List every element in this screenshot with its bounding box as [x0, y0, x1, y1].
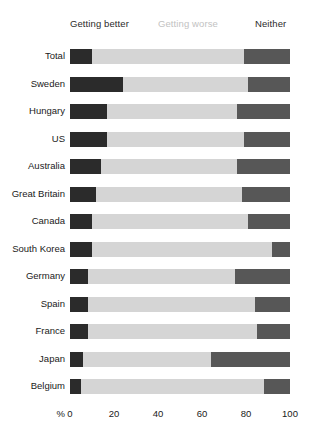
- legend-item-getting-better: Getting better: [70, 18, 129, 30]
- bar-segment-getting-better: [70, 269, 88, 284]
- x-axis: % 020406080100: [0, 404, 312, 426]
- bar-segment-getting-worse: [83, 352, 211, 367]
- bar-segment-getting-worse: [101, 159, 237, 174]
- bar-segment-getting-better: [70, 242, 92, 257]
- bar-segment-getting-better: [70, 297, 88, 312]
- stacked-bar-chart: Getting better Getting worse Neither Tot…: [0, 0, 312, 448]
- bar-track: [70, 379, 290, 394]
- bar-row: Canada: [0, 211, 312, 239]
- legend-item-neither: Neither: [255, 18, 286, 30]
- x-axis-tick-label: 80: [241, 408, 252, 420]
- bar-row: Hungary: [0, 101, 312, 129]
- bar-track: [70, 187, 290, 202]
- bar-segment-neither: [257, 324, 290, 339]
- bar-row: South Korea: [0, 239, 312, 267]
- bar-row: Japan: [0, 349, 312, 377]
- bar-row-label: Spain: [0, 298, 65, 310]
- bar-row-label: Great Britain: [0, 188, 65, 200]
- bar-segment-getting-better: [70, 352, 83, 367]
- x-axis-unit-label: %: [45, 408, 65, 420]
- bar-row-label: Canada: [0, 215, 65, 227]
- bar-segment-neither: [264, 379, 290, 394]
- bar-track: [70, 49, 290, 64]
- x-axis-tick-label: 0: [67, 408, 72, 420]
- bar-segment-getting-worse: [92, 242, 272, 257]
- bar-segment-getting-worse: [88, 324, 257, 339]
- bar-segment-neither: [237, 104, 290, 119]
- bar-segment-getting-better: [70, 214, 92, 229]
- bar-row: Germany: [0, 266, 312, 294]
- bar-segment-neither: [248, 214, 290, 229]
- chart-legend: Getting better Getting worse Neither: [0, 18, 312, 36]
- bar-segment-neither: [235, 269, 290, 284]
- bar-row-label: Hungary: [0, 105, 65, 117]
- bar-segment-getting-better: [70, 132, 107, 147]
- chart-plot-area: TotalSwedenHungaryUSAustraliaGreat Brita…: [0, 46, 312, 404]
- bar-row-label: US: [0, 133, 65, 145]
- bar-row-label: Sweden: [0, 78, 65, 90]
- bar-segment-getting-worse: [81, 379, 264, 394]
- bar-track: [70, 132, 290, 147]
- bar-segment-getting-better: [70, 159, 101, 174]
- bar-segment-neither: [255, 297, 290, 312]
- x-axis-tick-label: 40: [153, 408, 164, 420]
- bar-row-label: France: [0, 325, 65, 337]
- bar-segment-neither: [248, 77, 290, 92]
- bar-segment-getting-worse: [107, 104, 237, 119]
- bar-track: [70, 324, 290, 339]
- bar-row: Australia: [0, 156, 312, 184]
- bar-row-label: Total: [0, 50, 65, 62]
- bar-segment-getting-worse: [92, 214, 248, 229]
- bar-row: France: [0, 321, 312, 349]
- bar-row: Great Britain: [0, 184, 312, 212]
- bar-row-label: Germany: [0, 270, 65, 282]
- bar-row: Belgium: [0, 376, 312, 404]
- bar-segment-getting-better: [70, 187, 96, 202]
- bar-segment-getting-worse: [92, 49, 244, 64]
- bar-segment-neither: [244, 132, 290, 147]
- bar-segment-neither: [242, 187, 290, 202]
- bar-row-label: Australia: [0, 160, 65, 172]
- bar-track: [70, 297, 290, 312]
- bar-row: Total: [0, 46, 312, 74]
- bar-segment-getting-worse: [88, 297, 255, 312]
- bar-segment-getting-worse: [107, 132, 243, 147]
- bar-segment-getting-worse: [88, 269, 235, 284]
- x-axis-tick-label: 100: [282, 408, 298, 420]
- bar-segment-getting-worse: [123, 77, 248, 92]
- bar-track: [70, 242, 290, 257]
- bar-segment-getting-better: [70, 379, 81, 394]
- legend-item-getting-worse: Getting worse: [158, 18, 218, 30]
- x-axis-tick-label: 60: [197, 408, 208, 420]
- bar-track: [70, 269, 290, 284]
- bar-segment-neither: [237, 159, 290, 174]
- bar-track: [70, 214, 290, 229]
- bar-segment-getting-better: [70, 324, 88, 339]
- bar-track: [70, 352, 290, 367]
- bar-row-label: Japan: [0, 353, 65, 365]
- bar-segment-getting-worse: [96, 187, 241, 202]
- bar-track: [70, 104, 290, 119]
- bar-track: [70, 159, 290, 174]
- bar-segment-neither: [272, 242, 290, 257]
- bar-track: [70, 77, 290, 92]
- bar-segment-getting-better: [70, 49, 92, 64]
- bar-segment-neither: [211, 352, 290, 367]
- bar-row: US: [0, 129, 312, 157]
- bar-row-label: South Korea: [0, 243, 65, 255]
- bar-segment-getting-better: [70, 77, 123, 92]
- bar-row-label: Belgium: [0, 380, 65, 392]
- bar-segment-neither: [244, 49, 290, 64]
- bar-segment-getting-better: [70, 104, 107, 119]
- bar-row: Sweden: [0, 74, 312, 102]
- x-axis-tick-label: 20: [109, 408, 120, 420]
- bar-row: Spain: [0, 294, 312, 322]
